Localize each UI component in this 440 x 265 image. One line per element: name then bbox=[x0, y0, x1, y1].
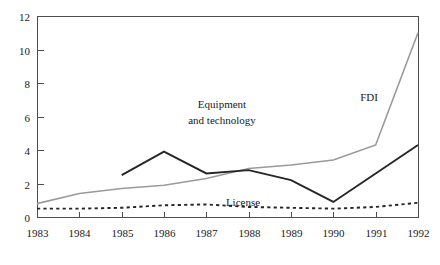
x-tick-label: 1986 bbox=[154, 227, 177, 239]
x-tick-label: 1992 bbox=[408, 227, 430, 239]
y-tick-label: 6 bbox=[25, 112, 31, 124]
x-tick-label: 1989 bbox=[281, 227, 304, 239]
chart-figure: 024681012 198319841985198619871988198919… bbox=[0, 0, 440, 265]
y-axis-tick-labels: 024681012 bbox=[19, 11, 31, 224]
x-tick-label: 1990 bbox=[323, 227, 346, 239]
y-tick-label: 0 bbox=[25, 212, 31, 224]
annotation-fdi: FDI bbox=[360, 91, 378, 103]
x-tick-label: 1988 bbox=[239, 227, 262, 239]
y-tick-label: 12 bbox=[19, 11, 30, 23]
series-line-equipment-and-technology bbox=[122, 145, 418, 202]
x-tick-label: 1987 bbox=[196, 227, 219, 239]
x-axis-tick-labels: 1983198419851986198719881989199019911992 bbox=[27, 227, 430, 239]
y-tick-label: 2 bbox=[25, 179, 31, 191]
x-tick-label: 1983 bbox=[27, 227, 50, 239]
line-chart: 024681012 198319841985198619871988198919… bbox=[0, 0, 440, 265]
x-tick-label: 1984 bbox=[69, 227, 92, 239]
annotation-and-technology: and technology bbox=[188, 114, 256, 126]
y-tick-label: 10 bbox=[19, 45, 31, 57]
x-axis-ticks bbox=[80, 212, 377, 218]
annotation-equipment: Equipment bbox=[198, 98, 246, 110]
x-tick-label: 1991 bbox=[366, 227, 388, 239]
annotation-license: License bbox=[226, 196, 260, 208]
y-tick-label: 4 bbox=[25, 145, 31, 157]
y-tick-label: 8 bbox=[25, 78, 31, 90]
y-axis-ticks bbox=[38, 51, 44, 185]
x-tick-label: 1985 bbox=[112, 227, 135, 239]
